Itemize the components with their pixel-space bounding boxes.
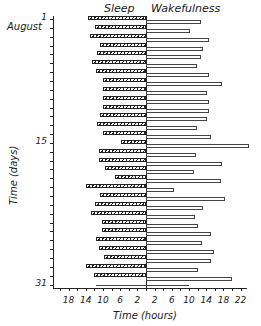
month-label: August <box>7 21 42 32</box>
wake-bar <box>146 135 211 139</box>
sleep-bar <box>95 25 146 29</box>
y-tick <box>50 28 54 29</box>
sleep-bar <box>90 34 146 38</box>
sleep-bar <box>91 211 146 215</box>
x-tick <box>215 288 216 291</box>
y-tick <box>50 90 54 91</box>
y-tick <box>50 152 54 153</box>
x-tick <box>103 288 104 291</box>
y-tick <box>50 231 54 232</box>
y-tick <box>50 196 54 197</box>
sleep-bar <box>96 237 146 241</box>
y-tick <box>50 72 54 73</box>
x-tick <box>146 288 147 291</box>
y-tick <box>50 285 54 286</box>
sleep-bar <box>88 16 146 20</box>
sleep-bar <box>100 193 146 197</box>
y-tick <box>50 134 54 135</box>
x-tick <box>137 288 138 291</box>
x-tick-label: 10 <box>183 295 194 305</box>
x-tick-label: 18 <box>63 295 74 305</box>
x-tick <box>129 288 130 291</box>
sleep-bar <box>96 69 146 73</box>
y-tick <box>50 81 54 82</box>
x-tick <box>232 288 233 291</box>
x-tick <box>172 288 173 291</box>
y-tick <box>50 169 54 170</box>
sleep-bar <box>103 105 146 109</box>
wakefulness-header: Wakefulness <box>151 2 220 15</box>
sleep-bar <box>95 202 146 206</box>
wake-bar <box>146 55 201 59</box>
sleep-bar <box>121 140 146 144</box>
wake-bar <box>146 259 211 263</box>
wake-bar <box>146 241 202 245</box>
wake-bar <box>146 126 197 130</box>
sleep-bar <box>86 184 146 188</box>
wake-bar <box>146 170 194 174</box>
sleep-bar <box>102 220 146 224</box>
x-tick <box>180 288 181 291</box>
sleep-bar <box>86 264 146 268</box>
x-tick-label: 2 <box>135 295 141 305</box>
y-axis-title: Time (days) <box>8 146 19 205</box>
sleep-bar <box>97 122 146 126</box>
y-tick <box>50 161 54 162</box>
wake-bar <box>146 91 207 95</box>
x-tick <box>120 288 121 291</box>
x-tick <box>155 288 156 291</box>
x-tick <box>223 288 224 291</box>
wake-bar <box>146 38 209 42</box>
x-tick <box>206 288 207 291</box>
wake-bar <box>146 268 198 272</box>
wake-bar <box>146 29 190 33</box>
y-tick <box>50 276 54 277</box>
day-record-line <box>96 285 189 286</box>
wake-bar <box>146 188 174 192</box>
wake-bar <box>146 109 209 113</box>
wake-bar <box>146 82 222 86</box>
x-tick-label: 22 <box>235 295 246 305</box>
x-tick <box>94 288 95 291</box>
wake-bar <box>146 179 221 183</box>
y-tick-label: 31 <box>36 278 47 288</box>
sleep-bar <box>103 131 146 135</box>
sleep-bar <box>103 78 146 82</box>
y-tick <box>50 267 54 268</box>
sleep-bar <box>94 273 146 277</box>
y-tick <box>50 125 54 126</box>
wake-bar <box>146 197 225 201</box>
sleep-bar <box>102 228 146 232</box>
sleep-bar <box>99 158 146 162</box>
sleep-bar <box>99 149 146 153</box>
sleep-bar <box>115 175 146 179</box>
wake-bar <box>146 47 203 51</box>
x-tick <box>198 288 199 291</box>
wake-bar <box>146 215 195 219</box>
y-tick <box>50 46 54 47</box>
y-tick <box>50 37 54 38</box>
y-tick <box>50 258 54 259</box>
x-tick <box>69 288 70 291</box>
x-tick <box>189 288 190 291</box>
x-tick-label: 6 <box>169 295 175 305</box>
x-tick-label: 6 <box>117 295 123 305</box>
x-axis-title: Time (hours) <box>113 310 177 321</box>
x-tick-label: 14 <box>80 295 91 305</box>
y-tick <box>50 223 54 224</box>
sleep-bar <box>100 113 146 117</box>
y-tick <box>50 108 54 109</box>
wake-bar <box>146 144 249 148</box>
y-tick <box>50 187 54 188</box>
x-tick <box>163 288 164 291</box>
x-tick <box>86 288 87 291</box>
sleep-bar <box>103 87 146 91</box>
wake-bar <box>146 206 203 210</box>
wake-bar <box>146 20 201 24</box>
wake-bar <box>146 224 198 228</box>
x-tick <box>77 288 78 291</box>
wake-bar <box>146 162 222 166</box>
wake-bar <box>146 117 207 121</box>
y-tick-label: 15 <box>36 136 47 146</box>
sleep-bar <box>103 96 146 100</box>
